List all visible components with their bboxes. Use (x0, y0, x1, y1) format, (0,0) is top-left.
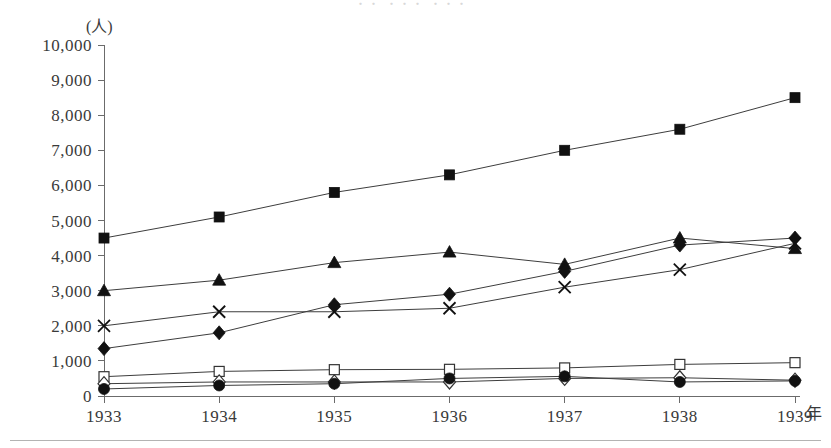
x-axis-tick-label: 1937 (547, 407, 583, 426)
data-point-filled-diamond (213, 326, 225, 340)
x-axis-unit-label: 年 (806, 405, 822, 422)
marker-filled-square (329, 187, 339, 197)
marker-filled-diamond (444, 287, 456, 301)
data-point-cross (559, 281, 571, 293)
marker-filled-circle (329, 378, 340, 389)
marker-filled-circle (559, 371, 570, 382)
data-point-filled-circle (790, 375, 801, 386)
data-point-open-square (675, 359, 685, 369)
series-filled-square-line (104, 98, 795, 238)
y-axis: 01,0002,0003,0004,0005,0006,0007,0008,00… (42, 36, 104, 406)
x-axis-tick-label: 1936 (432, 407, 468, 426)
marker-filled-square (99, 233, 109, 243)
data-point-filled-triangle (443, 246, 456, 258)
marker-filled-diamond (98, 342, 110, 356)
y-axis-tick-label: 8,000 (51, 106, 92, 125)
line-chart: 01,0002,0003,0004,0005,0006,0007,0008,00… (0, 0, 831, 448)
marker-filled-circle (674, 376, 685, 387)
data-point-filled-circle (214, 380, 225, 391)
data-point-filled-square (445, 170, 455, 180)
y-axis-tick-label: 3,000 (51, 282, 92, 301)
marker-filled-circle (99, 383, 110, 394)
data-point-open-square (790, 358, 800, 368)
y-axis-tick-label: 4,000 (51, 247, 92, 266)
marker-filled-circle (214, 380, 225, 391)
series-filled-square (99, 93, 800, 243)
x-axis-tick-label: 1933 (86, 407, 122, 426)
chart-figure: ・・ ・・・ ・・・ 01,0002,0003,0004,0005,0006,0… (0, 0, 831, 448)
data-point-filled-circle (674, 376, 685, 387)
data-point-cross (674, 264, 686, 276)
x-axis-tick-label: 1934 (201, 407, 237, 426)
data-point-filled-circle (329, 378, 340, 389)
data-point-filled-square (675, 124, 685, 134)
data-point-open-square (329, 365, 339, 375)
data-point-filled-diamond (328, 298, 340, 312)
data-point-filled-diamond (98, 342, 110, 356)
data-point-filled-square (329, 187, 339, 197)
marker-filled-square (560, 145, 570, 155)
y-axis-tick-label: 6,000 (51, 176, 92, 195)
data-point-filled-circle (444, 373, 455, 384)
series-layer (98, 93, 802, 395)
marker-filled-square (675, 124, 685, 134)
marker-filled-circle (790, 375, 801, 386)
marker-filled-diamond (328, 298, 340, 312)
data-point-filled-circle (99, 383, 110, 394)
marker-filled-diamond (789, 231, 801, 245)
marker-filled-circle (444, 373, 455, 384)
marker-filled-triangle (443, 246, 456, 258)
marker-filled-square (214, 212, 224, 222)
data-point-filled-circle (559, 371, 570, 382)
y-axis-tick-label: 5,000 (51, 212, 92, 231)
data-point-filled-square (790, 93, 800, 103)
marker-open-square (329, 365, 339, 375)
marker-open-square (675, 359, 685, 369)
data-point-filled-square (99, 233, 109, 243)
x-axis-tick-label: 1938 (662, 407, 698, 426)
y-axis-tick-label: 7,000 (51, 141, 92, 160)
y-axis-tick-label: 2,000 (51, 317, 92, 336)
marker-filled-diamond (213, 326, 225, 340)
data-point-filled-square (214, 212, 224, 222)
y-axis-tick-label: 10,000 (42, 36, 92, 55)
x-axis: 1933193419351936193719381939 (86, 396, 813, 426)
y-axis-unit-label: (人) (86, 18, 113, 36)
axis-unit-labels: (人) 年 (86, 18, 822, 422)
y-axis-tick-label: 0 (83, 387, 92, 406)
data-point-filled-square (560, 145, 570, 155)
data-point-filled-diamond (444, 287, 456, 301)
marker-filled-square (445, 170, 455, 180)
marker-filled-square (790, 93, 800, 103)
y-axis-tick-label: 1,000 (51, 352, 92, 371)
y-axis-tick-label: 9,000 (51, 71, 92, 90)
marker-open-square (790, 358, 800, 368)
x-axis-tick-label: 1935 (316, 407, 352, 426)
data-point-filled-diamond (789, 231, 801, 245)
series-filled-triangle (98, 232, 802, 296)
